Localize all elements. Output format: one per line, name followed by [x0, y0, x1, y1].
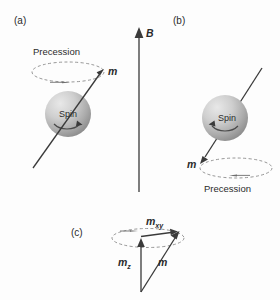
panel-c-precession-direction-arrow [130, 230, 138, 232]
panel-c-label: (c) [71, 227, 83, 238]
panel-b: (b) m Spin Precession [173, 15, 272, 194]
panel-c-mxy-sub: xy [154, 222, 164, 230]
panel-a-precession-label: Precession [33, 46, 80, 57]
panel-a-moment-arrowhead [97, 69, 104, 76]
panel-b-sphere-label: Spin [218, 113, 236, 123]
panel-c-mz-base: m [118, 256, 127, 268]
panel-c-m-label: m [158, 256, 167, 268]
physics-figure-precession: (a) Precession Spin m B [0, 0, 280, 300]
panel-c: (c) mz m mxy [71, 215, 184, 292]
panel-c-mxy-label: mxy [146, 215, 164, 230]
b-field-arrowhead [135, 27, 144, 38]
panel-c-mxy-vector [141, 233, 171, 237]
panel-b-precession-label: Precession [204, 183, 251, 194]
panel-b-moment-arrowhead [200, 156, 208, 164]
panel-b-moment-label: m [187, 158, 196, 170]
panel-a-moment-label: m [108, 65, 117, 77]
b-field-label: B [146, 27, 154, 39]
panel-c-mz-label: mz [118, 256, 131, 270]
panel-c-mz-arrowhead [137, 238, 145, 247]
panel-b-precession-direction-arrow [229, 174, 237, 176]
figure-canvas: (a) Precession Spin m B [0, 0, 280, 300]
panel-c-mxy-base: m [146, 215, 155, 227]
panel-a-precession-ellipse [32, 62, 104, 82]
panel-b-label: (b) [173, 15, 185, 26]
panel-a-label: (a) [14, 15, 26, 26]
magnetic-field-axis: B [135, 27, 154, 192]
panel-c-mz-sub: z [126, 263, 131, 270]
panel-a: (a) Precession Spin m [14, 15, 117, 168]
